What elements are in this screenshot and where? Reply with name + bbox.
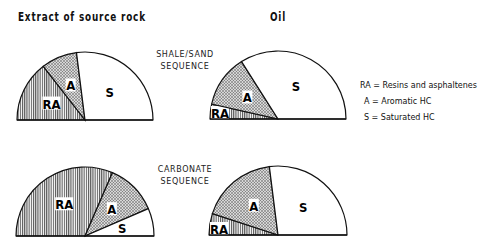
sector-label-a: A — [107, 202, 116, 217]
sector-label-a: A — [249, 199, 258, 214]
sector-label-ra: RA — [42, 97, 60, 112]
sector-s — [76, 52, 153, 120]
sector-label-s: S — [118, 221, 126, 236]
sector-label-ra: RA — [55, 197, 73, 212]
sector-label-s: S — [292, 79, 300, 94]
pie-group: RAASRAASRAASRAAS — [16, 51, 347, 237]
sector-label-s: S — [106, 85, 114, 100]
sector-label-a: A — [243, 90, 252, 105]
sector-s — [269, 166, 347, 235]
semicircle-charts: RAASRAASRAASRAAS — [0, 0, 495, 247]
sector-label-s: S — [299, 200, 307, 215]
sector-label-a: A — [66, 78, 75, 93]
